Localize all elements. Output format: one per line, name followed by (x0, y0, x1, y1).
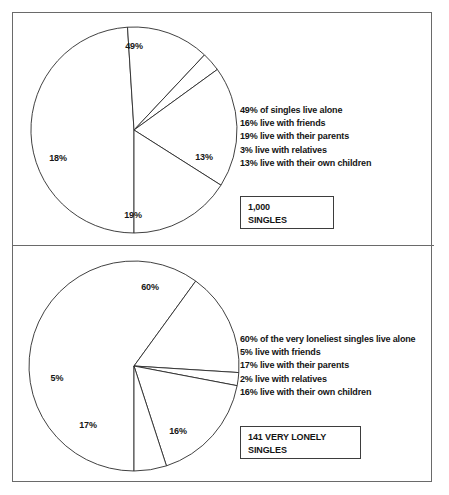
slice-label-parents: 19% (124, 210, 142, 220)
pie-chart-figure: 49% 13% 19% 18% 49% of singles live alon… (0, 0, 449, 495)
legend-line: 16% live with their own children (240, 386, 415, 399)
pie-slice (31, 27, 134, 233)
slice-label-own-children: 16% (169, 426, 187, 436)
legend-line: 5% live with friends (240, 346, 415, 359)
count-box-line2: SINGLES (248, 214, 326, 227)
legend-line: 49% of singles live alone (240, 104, 371, 117)
slice-label-parents: 17% (79, 420, 97, 430)
slice-label-live-alone: 60% (141, 282, 159, 292)
slice-label-friends: 5% (51, 373, 64, 383)
legend-line: 19% live with their parents (240, 130, 371, 143)
legend-line: 60% of the very loneliest singles live a… (240, 333, 415, 346)
count-box-line1: 1,000 (248, 201, 326, 214)
singles-panel: 49% 13% 19% 18% 49% of singles live alon… (12, 12, 434, 245)
very-lonely-singles-panel: 60% 16% 17% 5% 60% of the very loneliest… (12, 246, 434, 482)
singles-count-box: 1,000 SINGLES (240, 196, 334, 229)
legend-line: 2% live with relatives (240, 373, 415, 386)
legend-line: 16% live with friends (240, 117, 371, 130)
slice-label-live-alone: 49% (125, 41, 143, 51)
count-box-line1: 141 VERY LONELY (248, 431, 353, 444)
legend-line: 13% live with their own children (240, 157, 371, 170)
very-lonely-singles-legend: 60% of the very loneliest singles live a… (240, 333, 415, 399)
legend-line: 3% live with relatives (240, 144, 371, 157)
very-lonely-singles-count-box: 141 VERY LONELY SINGLES (240, 426, 361, 459)
slice-label-friends: 18% (49, 153, 67, 163)
singles-legend: 49% of singles live alone 16% live with … (240, 104, 371, 170)
legend-line: 17% live with their parents (240, 359, 415, 372)
slice-label-own-children: 13% (195, 152, 213, 162)
count-box-line2: SINGLES (248, 444, 353, 457)
